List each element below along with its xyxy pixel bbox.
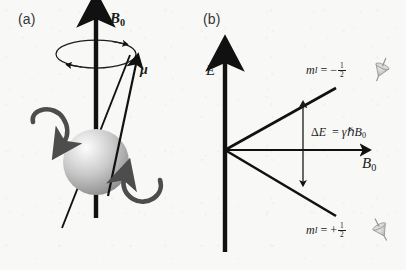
panel-b-label: (b)	[203, 11, 221, 27]
equation-equals: =	[332, 125, 339, 139]
energy-axis-label: E	[206, 62, 215, 79]
upper-energy-level-line	[225, 88, 336, 150]
equation-field-subscript: 0	[362, 131, 366, 140]
lower-level-fraction: 1 2	[338, 222, 346, 239]
field-axis-label: B0	[362, 155, 376, 173]
lower-level-numerator: 1	[338, 222, 346, 229]
spinning-top-icon-upper	[370, 55, 392, 83]
energy-gap-equation: ΔE =γℏB0	[311, 125, 366, 140]
upper-level-numerator: 1	[338, 62, 346, 69]
precession-direction-arrow-bottom	[70, 65, 82, 67]
field-axis-subscript: 0	[371, 162, 376, 173]
spin-rotation-arrow-left-icon	[33, 109, 68, 142]
delta-symbol: Δ	[311, 125, 319, 139]
spinning-top-icon-lower	[369, 215, 393, 244]
lower-energy-level-line	[225, 150, 336, 216]
spin-rotation-arrow-right-icon	[123, 179, 160, 202]
lower-level-m-subscript: I	[315, 226, 318, 235]
lower-level-equals: =	[320, 223, 327, 238]
upper-level-sign: −	[330, 63, 337, 78]
field-vector-symbol: B	[110, 10, 120, 26]
magnetic-field-vector-label: B0	[110, 10, 125, 28]
upper-level-label: mI = − 1 2	[306, 62, 347, 79]
upper-level-denominator: 2	[338, 70, 346, 78]
magnetic-moment-label: μ	[140, 62, 148, 78]
panel-a-label: (a)	[18, 11, 36, 27]
field-vector-subscript: 0	[120, 17, 125, 28]
equation-field-symbol: B	[355, 125, 362, 139]
upper-level-m-subscript: I	[315, 66, 318, 75]
lower-level-m-symbol: m	[306, 223, 315, 238]
lower-level-denominator: 2	[338, 230, 346, 238]
upper-level-m-symbol: m	[306, 63, 315, 78]
lower-level-label: mI = + 1 2	[306, 222, 347, 239]
equation-energy-symbol: E	[319, 125, 326, 139]
figure-root: (a) (b) B0 μ E B0 ΔE =γℏB0 mI = − 1 2 mI…	[0, 0, 406, 270]
hbar-symbol: ℏ	[347, 125, 355, 139]
upper-level-equals: =	[320, 63, 327, 78]
field-axis-symbol: B	[362, 155, 371, 171]
upper-level-fraction: 1 2	[338, 62, 346, 79]
lower-level-sign: +	[330, 223, 337, 238]
